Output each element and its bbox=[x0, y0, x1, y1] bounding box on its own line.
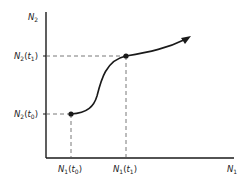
y-tick-label-t0: N2(t0) bbox=[14, 109, 38, 120]
arrowhead-icon bbox=[181, 36, 191, 44]
diagram-canvas: N2 N1 N2(t1) N2(t0) N1(t0) N1(t1) bbox=[0, 0, 249, 184]
trajectory-curve bbox=[71, 39, 186, 114]
x-tick-label-t0: N1(t0) bbox=[58, 164, 82, 175]
y-axis-label: N2 bbox=[28, 12, 38, 23]
x-axis-label: N1 bbox=[227, 164, 237, 175]
point-t0 bbox=[68, 111, 73, 116]
x-tick-label-t1: N1(t1) bbox=[113, 164, 137, 175]
y-tick-label-t1: N2(t1) bbox=[14, 51, 38, 62]
point-t1 bbox=[123, 53, 128, 58]
